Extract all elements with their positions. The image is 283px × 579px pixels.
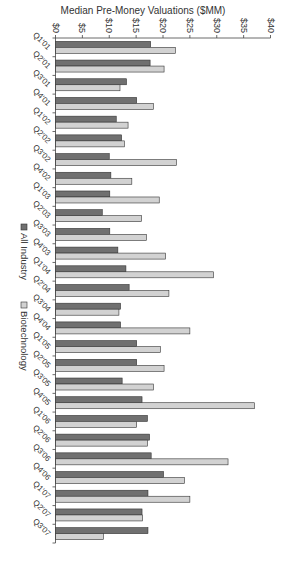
legend-swatch-biotechnology bbox=[21, 302, 27, 308]
bar-all-industry bbox=[56, 490, 148, 496]
bar-all-industry bbox=[56, 415, 148, 421]
bar-biotechnology bbox=[56, 103, 154, 109]
bar-biotechnology bbox=[56, 403, 255, 409]
bar-all-industry bbox=[56, 509, 143, 515]
x-tick-label: Q3'02 bbox=[31, 143, 53, 165]
x-tick-label: Q1'06 bbox=[31, 405, 53, 427]
bar-all-industry bbox=[56, 378, 123, 384]
bar-all-industry bbox=[56, 135, 122, 141]
bar-biotechnology bbox=[56, 328, 190, 334]
bar-biotechnology bbox=[56, 291, 169, 297]
x-tick-label: Q1'07 bbox=[31, 479, 53, 501]
legend-swatch-all-industry bbox=[21, 224, 27, 230]
bar-all-industry bbox=[56, 341, 137, 347]
x-tick-label: Q1'05 bbox=[31, 330, 53, 352]
bar-biotechnology bbox=[56, 178, 132, 184]
bar-all-industry bbox=[56, 247, 118, 253]
x-tick-label: Q4'02 bbox=[31, 161, 53, 183]
bar-biotechnology bbox=[56, 160, 177, 166]
x-tick-label: Q3'07 bbox=[31, 517, 53, 539]
bar-all-industry bbox=[56, 191, 110, 197]
x-tick-label: Q1'01 bbox=[31, 30, 53, 52]
bar-all-industry bbox=[56, 453, 152, 459]
legend-label-all-industry: All Industry bbox=[19, 233, 30, 280]
x-axis-labels: Q1'01Q2'01Q3'01Q4'01Q1'02Q2'02Q3'02Q4'02… bbox=[31, 30, 53, 538]
bar-chart: Median Pre-Money Valuations ($MM) $0$5$1… bbox=[0, 0, 283, 579]
x-tick-label: Q1'03 bbox=[31, 180, 53, 202]
bar-biotechnology bbox=[56, 309, 119, 315]
x-tick-label: Q2'07 bbox=[31, 498, 53, 520]
y-tick-label: $25 bbox=[185, 18, 195, 33]
x-tick-label: Q4'01 bbox=[31, 87, 53, 109]
bar-biotechnology bbox=[56, 440, 148, 446]
x-tick-label: Q3'06 bbox=[31, 442, 53, 464]
bar-biotechnology bbox=[56, 66, 165, 72]
x-tick-label: Q3'05 bbox=[31, 367, 53, 389]
bar-biotechnology bbox=[56, 253, 166, 259]
y-tick-label: $15 bbox=[131, 18, 141, 33]
y-tick-label: $35 bbox=[239, 18, 249, 33]
x-tick-label: Q2'03 bbox=[31, 199, 53, 221]
bar-biotechnology bbox=[56, 141, 125, 147]
y-axis-ticks: $0$5$10$15$20$25$30$35$40 bbox=[51, 18, 276, 38]
x-tick-label: Q2'05 bbox=[31, 348, 53, 370]
bar-all-industry bbox=[56, 359, 137, 365]
legend: All Industry Biotechnology bbox=[19, 224, 30, 371]
x-tick-label: Q4'06 bbox=[31, 461, 53, 483]
bar-all-industry bbox=[56, 397, 143, 403]
bar-all-industry bbox=[56, 210, 103, 216]
bar-all-industry bbox=[56, 97, 137, 103]
bar-biotechnology bbox=[56, 234, 147, 240]
x-tick-label: Q1'04 bbox=[31, 255, 53, 277]
bar-biotechnology bbox=[56, 534, 104, 540]
bar-biotechnology bbox=[56, 272, 214, 278]
x-tick-label: Q4'03 bbox=[31, 236, 53, 258]
bar-biotechnology bbox=[56, 347, 161, 353]
y-tick-label: $20 bbox=[158, 18, 168, 33]
x-axis bbox=[53, 38, 56, 543]
bar-biotechnology bbox=[56, 197, 160, 203]
bar-biotechnology bbox=[56, 478, 185, 484]
legend-label-biotechnology: Biotechnology bbox=[19, 311, 30, 371]
bar-biotechnology bbox=[56, 384, 154, 390]
x-tick-label: Q3'04 bbox=[31, 292, 53, 314]
y-tick-label: $5 bbox=[77, 23, 87, 33]
bar-all-industry bbox=[56, 434, 150, 440]
x-tick-label: Q4'05 bbox=[31, 386, 53, 408]
bar-biotechnology bbox=[56, 421, 137, 427]
rotated-chart-container: Median Pre-Money Valuations ($MM) $0$5$1… bbox=[0, 0, 283, 579]
x-tick-label: Q3'03 bbox=[31, 218, 53, 240]
x-tick-label: Q2'02 bbox=[31, 124, 53, 146]
bar-all-industry bbox=[56, 79, 127, 85]
bars bbox=[56, 41, 255, 539]
x-tick-label: Q4'04 bbox=[31, 311, 53, 333]
bar-biotechnology bbox=[56, 122, 129, 128]
bar-all-industry bbox=[56, 60, 151, 66]
y-tick-label: $30 bbox=[212, 18, 222, 33]
bar-all-industry bbox=[56, 266, 126, 272]
bar-all-industry bbox=[56, 154, 110, 160]
bar-all-industry bbox=[56, 41, 151, 47]
bar-all-industry bbox=[56, 116, 117, 122]
x-tick-label: Q3'01 bbox=[31, 68, 53, 90]
bar-biotechnology bbox=[56, 47, 176, 53]
x-tick-label: Q2'06 bbox=[31, 423, 53, 445]
y-tick-label: $10 bbox=[104, 18, 114, 33]
bar-all-industry bbox=[56, 172, 111, 178]
bar-biotechnology bbox=[56, 515, 143, 521]
x-tick-label: Q2'01 bbox=[31, 49, 53, 71]
bar-all-industry bbox=[56, 472, 164, 478]
x-tick-label: Q2'04 bbox=[31, 274, 53, 296]
bar-all-industry bbox=[56, 303, 121, 309]
bar-biotechnology bbox=[56, 459, 229, 465]
bar-all-industry bbox=[56, 528, 148, 534]
y-tick-label: $0 bbox=[51, 23, 61, 33]
y-axis-title: Median Pre-Money Valuations ($MM) bbox=[61, 5, 226, 16]
y-tick-label: $40 bbox=[266, 18, 276, 33]
bar-biotechnology bbox=[56, 85, 121, 91]
bar-biotechnology bbox=[56, 365, 165, 371]
bar-biotechnology bbox=[56, 496, 190, 502]
bar-all-industry bbox=[56, 228, 110, 234]
bar-biotechnology bbox=[56, 216, 142, 222]
bar-all-industry bbox=[56, 285, 130, 291]
